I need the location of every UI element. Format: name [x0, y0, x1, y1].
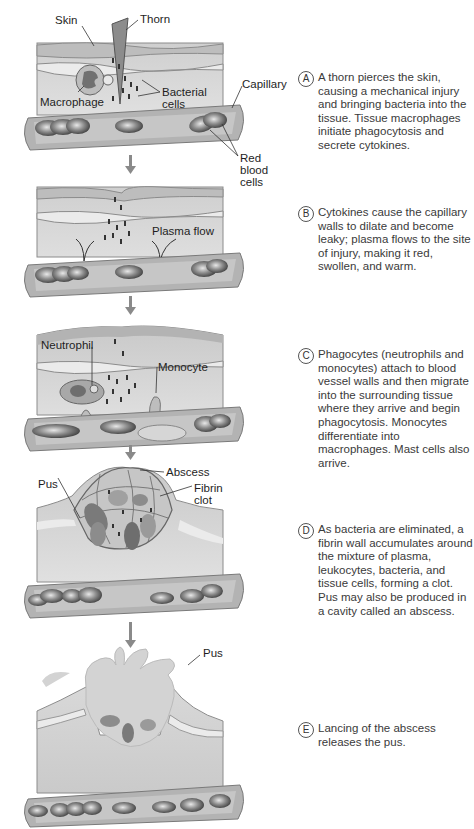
- panel-a-illustration: Skin Thorn Macrophage Bacterial cells Ca…: [0, 0, 290, 175]
- label-monocyte: Monocyte: [158, 361, 208, 373]
- label-skin: Skin: [55, 14, 77, 26]
- step-letter-badge: C: [298, 348, 314, 364]
- panel-c-illustration: Neutrophil Monocyte: [0, 315, 290, 460]
- step-text: A thorn pierces the skin, causing a mech…: [318, 71, 474, 153]
- label-abscess: Abscess: [166, 466, 209, 478]
- plasma-flow-illustration: [0, 175, 290, 315]
- step-letter-badge: A: [298, 71, 314, 87]
- label-macrophage: Macrophage: [40, 96, 104, 108]
- step-letter-badge: E: [298, 722, 314, 738]
- label-capillary: Capillary: [242, 78, 287, 90]
- label-pus-e: Pus: [203, 647, 223, 659]
- step-text: As bacteria are eliminated, a fibrin wal…: [318, 523, 474, 618]
- label-thorn: Thorn: [140, 13, 170, 25]
- step-text: Cytokines cause the capillary walls to d…: [318, 206, 474, 274]
- label-bacterial-cells: Bacterial cells: [162, 86, 207, 110]
- phagocyte-migration-illustration: [0, 315, 290, 460]
- step-text: Phagocytes (neutrophils and monocytes) a…: [318, 348, 474, 470]
- label-plasma-flow: Plasma flow: [152, 225, 214, 237]
- panel-e-illustration: Pus: [0, 635, 290, 829]
- lancing-illustration: [0, 635, 290, 829]
- panel-b-illustration: Plasma flow: [0, 175, 290, 315]
- step-letter-badge: B: [298, 206, 314, 222]
- label-neutrophil: Neutrophil: [41, 339, 93, 351]
- step-letter-badge: D: [298, 523, 314, 539]
- label-pus-d: Pus: [38, 478, 58, 490]
- step-text: Lancing of the abscess releases the pus.: [318, 722, 474, 749]
- label-fibrin-clot: Fibrin clot: [194, 482, 223, 506]
- panel-d-illustration: Pus Abscess Fibrin clot: [0, 460, 290, 635]
